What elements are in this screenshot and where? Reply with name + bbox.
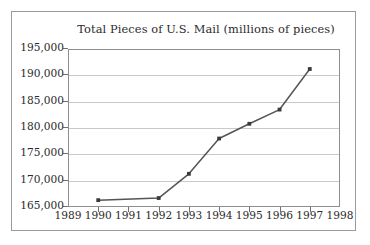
gridline-y <box>69 181 339 182</box>
y-tick-label: 195,000 <box>12 41 64 53</box>
gridline-y <box>69 154 339 155</box>
y-tick-label: 190,000 <box>12 67 64 79</box>
chart-title: Total Pieces of U.S. Mail (millions of p… <box>58 22 354 36</box>
y-tick-label: 185,000 <box>12 94 64 106</box>
chart-figure: Total Pieces of U.S. Mail (millions of p… <box>0 0 370 245</box>
y-tick-label: 180,000 <box>12 120 64 132</box>
plot-area <box>68 49 340 207</box>
y-tick-label: 170,000 <box>12 173 64 185</box>
gridline-y <box>69 102 339 103</box>
gridline-y <box>69 75 339 76</box>
y-tick-label: 175,000 <box>12 146 64 158</box>
gridline-y <box>69 128 339 129</box>
x-tick-label: 1998 <box>320 209 360 221</box>
